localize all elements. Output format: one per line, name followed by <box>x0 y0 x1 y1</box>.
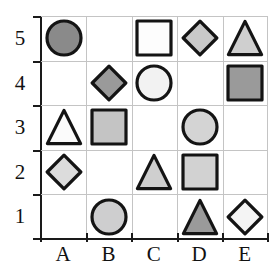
grid-cell-c4[interactable] <box>132 61 177 106</box>
y-axis-tick <box>33 105 41 107</box>
triangle-shape-icon <box>226 19 264 57</box>
circle-shape-icon <box>181 108 219 146</box>
y-axis-tick <box>33 194 41 196</box>
plot-area <box>41 16 268 239</box>
x-axis-label-e: E <box>222 244 268 265</box>
triangle-shape-icon <box>181 198 219 236</box>
grid-cell-d2[interactable] <box>177 150 222 195</box>
x-axis-label-c: C <box>131 244 177 265</box>
circle-shape-icon <box>135 64 173 102</box>
square-shape-icon <box>90 108 128 146</box>
grid-cell-c2[interactable] <box>132 150 177 195</box>
grid-cell-e3[interactable] <box>223 105 268 150</box>
x-axis-tick <box>86 233 88 242</box>
y-axis-tick <box>33 150 41 152</box>
grid-cell-c5[interactable] <box>132 16 177 61</box>
grid-cell-d3[interactable] <box>177 105 222 150</box>
diamond-shape-icon <box>45 153 83 191</box>
triangle-shape-icon <box>135 153 173 191</box>
grid-cell-e5[interactable] <box>223 16 268 61</box>
x-axis-label-b: B <box>85 244 131 265</box>
y-axis-label-5: 5 <box>8 28 32 49</box>
grid-cell-a2[interactable] <box>41 150 86 195</box>
grid-cell-d4[interactable] <box>177 61 222 106</box>
x-axis-tick <box>131 233 133 242</box>
grid-cell-d1[interactable] <box>177 194 222 239</box>
y-axis-tick <box>33 61 41 63</box>
triangle-shape-icon <box>45 108 83 146</box>
y-axis-label-4: 4 <box>8 73 32 94</box>
grid-cell-a4[interactable] <box>41 61 86 106</box>
grid-cell-a1[interactable] <box>41 194 86 239</box>
shape-grid-diagram: 5 4 3 2 1 A B C D E <box>0 0 273 275</box>
grid-cell-e2[interactable] <box>223 150 268 195</box>
x-axis-label-a: A <box>40 244 86 265</box>
grid-cell-b1[interactable] <box>86 194 131 239</box>
square-shape-icon <box>135 19 173 57</box>
diamond-shape-icon <box>90 64 128 102</box>
circle-shape-icon <box>90 198 128 236</box>
grid-cell-b2[interactable] <box>86 150 131 195</box>
square-shape-icon <box>181 153 219 191</box>
square-shape-icon <box>226 64 264 102</box>
grid-cell-d5[interactable] <box>177 16 222 61</box>
diamond-shape-icon <box>181 19 219 57</box>
grid-cell-a5[interactable] <box>41 16 86 61</box>
y-axis-label-3: 3 <box>8 117 32 138</box>
grid-cell-b3[interactable] <box>86 105 131 150</box>
grid-cell-b5[interactable] <box>86 16 131 61</box>
y-axis-label-2: 2 <box>8 162 32 183</box>
grid-cell-c1[interactable] <box>132 194 177 239</box>
x-axis-tick <box>267 233 269 242</box>
grid-cell-e4[interactable] <box>223 61 268 106</box>
grid-cell-e1[interactable] <box>223 194 268 239</box>
x-axis-tick <box>222 233 224 242</box>
x-axis-tick <box>177 233 179 242</box>
x-axis-tick <box>40 233 42 242</box>
y-axis-label-1: 1 <box>8 206 32 227</box>
grid-cell-b4[interactable] <box>86 61 131 106</box>
grid-cell-a3[interactable] <box>41 105 86 150</box>
grid-cell-c3[interactable] <box>132 105 177 150</box>
x-axis-label-d: D <box>176 244 222 265</box>
circle-shape-icon <box>45 19 83 57</box>
diamond-shape-icon <box>226 198 264 236</box>
y-axis-tick <box>33 16 41 18</box>
